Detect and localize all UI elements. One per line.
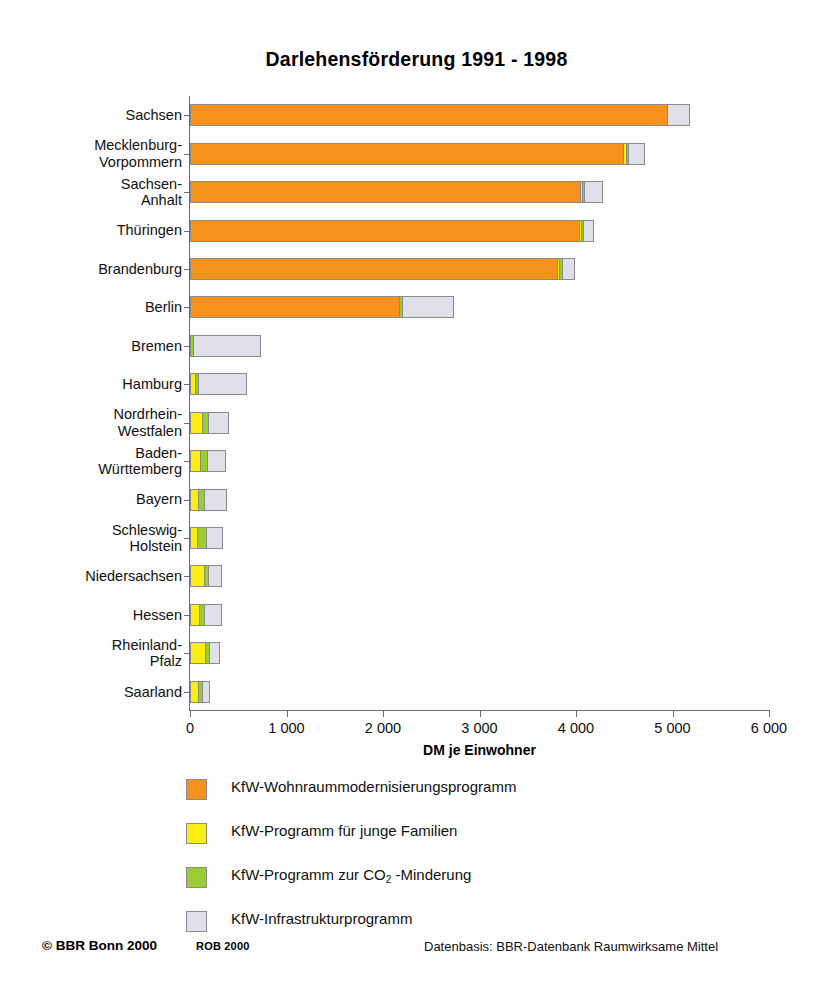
y-axis-label: Hamburg [32,376,182,393]
plot-area: 01 0002 0003 0004 0005 0006 000 [190,96,769,711]
y-axis-label: Brandenburg [32,261,182,278]
stacked-bar[interactable] [190,258,575,280]
stacked-bar[interactable] [190,181,603,203]
bar-segment[interactable] [191,566,204,586]
legend-item[interactable]: KfW-Programm für junge Familien [186,819,746,863]
bar-segment[interactable] [204,605,221,625]
stacked-bar[interactable] [190,681,210,703]
bar-segment[interactable] [191,643,205,663]
x-axis-tick-label: 3 000 [435,720,525,736]
y-axis-label: Hessen [32,607,182,624]
y-axis-label: Niedersachsen [32,568,182,585]
y-axis-label: Saarland [32,684,182,701]
x-axis-tick-label: 2 000 [338,720,428,736]
y-axis-label: Bayern [32,491,182,508]
x-axis-tick-label: 0 [145,720,235,736]
stacked-bar[interactable] [190,642,220,664]
x-axis-tick [769,710,770,717]
x-axis-tick-label: 4 000 [531,720,621,736]
legend-label: KfW-Wohnraummodernisierungsprogramm [231,778,516,795]
bar-segment[interactable] [200,451,207,471]
bar-segment[interactable] [198,374,246,394]
bar-segment[interactable] [191,297,399,317]
x-axis-tick-label: 6 000 [724,720,814,736]
copyright-text: © BBR Bonn 2000 [42,938,157,953]
y-axis-label: Berlin [32,299,182,316]
x-axis-tick [480,710,481,717]
bar-segment[interactable] [583,221,594,241]
bar-segment[interactable] [191,490,198,510]
stacked-bar[interactable] [190,296,454,318]
bar-segment[interactable] [562,259,575,279]
x-axis-tick-label: 1 000 [242,720,332,736]
y-axis-label: Nordrhein-Westfalen [32,406,182,439]
legend-color-swatch [186,911,207,932]
y-axis-label: Sachsen-Anhalt [32,176,182,209]
y-axis-label: Sachsen [32,107,182,124]
chart-title: Darlehensförderung 1991 - 1998 [0,48,833,71]
x-axis-title: DM je Einwohner [190,742,769,758]
bar-segment[interactable] [206,528,222,548]
chart-legend: KfW-WohnraummodernisierungsprogrammKfW-P… [186,775,746,951]
stacked-bar[interactable] [190,335,261,357]
bar-segment[interactable] [191,605,199,625]
bar-segment[interactable] [584,182,602,202]
bar-segment[interactable] [191,105,667,125]
x-axis-tick [576,710,577,717]
legend-item[interactable]: KfW-Wohnraummodernisierungsprogramm [186,775,746,819]
legend-color-swatch [186,867,207,888]
stacked-bar[interactable] [190,604,222,626]
stacked-bar[interactable] [190,104,690,126]
bar-segment[interactable] [191,259,557,279]
bar-segment[interactable] [191,682,198,702]
bar-segment[interactable] [191,413,202,433]
y-axis-label: Baden-Württemberg [32,445,182,478]
bar-segment[interactable] [197,528,207,548]
legend-color-swatch [186,823,207,844]
bar-segment[interactable] [191,221,579,241]
bar-segment[interactable] [667,105,690,125]
x-axis-tick [287,710,288,717]
bar-segment[interactable] [628,144,644,164]
legend-label: KfW-Infrastrukturprogramm [231,910,412,927]
stacked-bar[interactable] [190,143,645,165]
bar-segment[interactable] [207,451,225,471]
stacked-bar[interactable] [190,565,222,587]
y-axis-category-labels: SachsenMecklenburg-VorpommernSachsen-Anh… [28,96,182,711]
bar-segment[interactable] [402,297,453,317]
bar-segment[interactable] [191,144,623,164]
x-axis-tick [673,710,674,717]
bar-segment[interactable] [193,336,260,356]
stacked-bar[interactable] [190,220,594,242]
bar-segment[interactable] [204,490,226,510]
bar-segment[interactable] [191,182,580,202]
stacked-bar[interactable] [190,527,223,549]
data-source-text: Datenbasis: BBR-Datenbank Raumwirksame M… [424,939,718,954]
x-axis-tick [190,710,191,717]
y-axis-label: Bremen [32,338,182,355]
bar-segment[interactable] [202,682,209,702]
legend-item[interactable]: KfW-Programm zur CO2 -Minderung [186,863,746,907]
legend-label: KfW-Programm für junge Familien [231,822,457,839]
stacked-bar[interactable] [190,450,226,472]
rob-tag: ROB 2000 [196,940,250,952]
chart-footer: © BBR Bonn 2000 ROB 2000 Datenbasis: BBR… [0,938,833,962]
bar-segment[interactable] [191,451,200,471]
y-axis-label: Schleswig-Holstein [32,522,182,555]
y-axis-label: Mecklenburg-Vorpommern [32,137,182,170]
y-axis-label: Rheinland-Pfalz [32,637,182,670]
legend-label: KfW-Programm zur CO2 -Minderung [231,866,471,883]
x-axis-tick [383,710,384,717]
chart-page: Darlehensförderung 1991 - 1998 SachsenMe… [0,0,833,993]
legend-color-swatch [186,779,207,800]
x-axis-tick-label: 5 000 [628,720,718,736]
stacked-bar[interactable] [190,373,247,395]
bar-segment[interactable] [208,413,228,433]
stacked-bar[interactable] [190,412,229,434]
stacked-bar[interactable] [190,489,227,511]
bar-segment[interactable] [209,643,220,663]
bar-segment[interactable] [208,566,221,586]
y-axis-label: Thüringen [32,222,182,239]
